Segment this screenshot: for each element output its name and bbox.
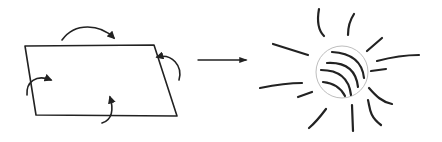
sun-figure	[260, 9, 419, 131]
curved-arrow-icon	[62, 27, 114, 40]
diagram-canvas	[0, 0, 442, 142]
inner-arcs	[321, 52, 364, 96]
parallelogram-shape	[25, 45, 177, 116]
parallelogram-figure	[25, 27, 180, 123]
curved-arrow-icon	[102, 97, 112, 123]
rays	[260, 9, 419, 131]
curved-arrow-icon	[157, 56, 180, 80]
diagram-svg	[0, 0, 442, 142]
